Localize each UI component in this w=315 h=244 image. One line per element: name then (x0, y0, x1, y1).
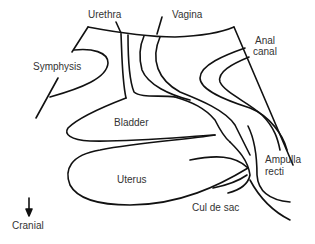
cul-de-sac-lower (213, 175, 247, 188)
urethra-anterior-wall (121, 34, 126, 98)
label-bladder: Bladder (114, 117, 148, 128)
left-boundary (72, 27, 88, 52)
label-urethra: Urethra (88, 9, 121, 20)
label-vagina: Vagina (172, 9, 202, 20)
left-lower-boundary (36, 78, 58, 118)
label-cranial: Cranial (12, 220, 44, 231)
label-recti: recti (265, 166, 284, 177)
label-anal: Anal (255, 35, 275, 46)
urethra-posterior-wall (128, 35, 175, 97)
label-cul-de-sac: Cul de sac (192, 202, 239, 213)
bladder-top (140, 36, 190, 100)
label-canal: canal (253, 46, 277, 57)
uterus-lower-line (190, 157, 248, 168)
label-symphysis: Symphysis (33, 61, 81, 72)
anal-canal-inner-2 (220, 57, 280, 150)
symphysis-outline (50, 50, 108, 97)
uterus-outline (68, 135, 248, 205)
top-boundary (88, 27, 234, 37)
anatomy-diagram: Urethra Vagina Anal canal Symphysis Blad… (0, 0, 315, 244)
label-ampulla: Ampulla (265, 154, 301, 165)
cranial-arrow-head (26, 209, 32, 216)
label-uterus: Uterus (117, 174, 146, 185)
ampulla-posterior (250, 180, 290, 220)
vagina-pointer (157, 17, 162, 34)
